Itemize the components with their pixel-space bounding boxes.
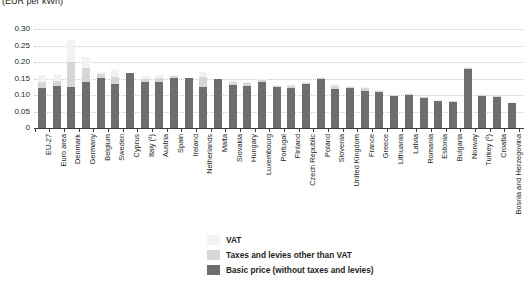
bar-segment-basic [420,98,428,128]
bar-segment-vat [67,40,75,62]
legend-item: VAT [207,232,374,247]
x-axis-label: Czech Republic [309,134,317,186]
bar-segment-basic [97,78,105,128]
bar-column [493,96,501,128]
bar-segment-basic [141,82,149,128]
bar-column [126,73,134,128]
legend-label: VAT [226,235,241,245]
x-axis-label: Bosnia and Herzegovina [515,134,523,215]
bar-segment-other [111,77,119,84]
bar-segment-basic [302,84,310,128]
bar-column [67,40,75,128]
bar-segment-basic [111,84,119,128]
bar-segment-other [82,68,90,83]
legend-swatch-vat [207,235,220,245]
x-axis-label: Hungary [250,134,258,162]
bar-column [449,101,457,128]
bar-segment-basic [361,91,369,128]
bar-segment-basic [449,102,457,128]
x-axis-label: Latvia [412,134,420,154]
bar-column [258,79,266,128]
bar-column [287,84,295,128]
bar-segment-vat [111,69,119,77]
x-axis-label: Greece [382,134,390,158]
x-axis-label: Croatia [500,134,508,158]
bar-column [508,102,516,128]
x-axis-label: Belgium [104,134,112,161]
bar-segment-basic [67,87,75,128]
bar-segment-vat [38,75,46,82]
legend-swatch-basic [207,265,220,275]
x-axis-label: Malta [221,134,229,152]
bar-segment-basic [434,101,442,128]
y-axis-tick-label: 0.15 [0,75,30,83]
x-axis-label: Germany [89,134,97,164]
bar-column [243,82,251,129]
x-axis-label: Austria [162,134,170,157]
bar-segment-basic [170,78,178,128]
y-axis-tick-label: 0.10 [0,91,30,99]
bar-segment-basic [155,82,163,128]
bar-column [53,74,61,128]
x-axis-label: Bulgaria [456,134,464,161]
x-axis-label: Turkey (²) [485,134,493,166]
legend-label: Basic price (without taxes and levies) [226,265,374,275]
bar-segment-other [199,77,207,87]
y-axis-tick-label: 0.05 [0,108,30,116]
bar-column [434,100,442,128]
bar-segment-basic [126,73,134,128]
bar-column [478,94,486,128]
plot-area: 00.050.100.150.200.250.30 [0,0,532,135]
legend-label: Taxes and levies other than VAT [226,250,352,260]
legend-item: Taxes and levies other than VAT [207,247,374,262]
bar-segment-basic [199,87,207,128]
bar-segment-basic [478,96,486,128]
bar-segment-basic [185,78,193,128]
bar-segment-basic [273,87,281,128]
x-axis-label: Estonia [441,134,449,159]
bar-segment-vat [53,74,61,81]
bar-column [375,90,383,128]
x-axis-label: Netherlands [206,134,214,174]
x-axis-label: Slovakia [236,134,244,162]
bar-segment-basic [508,103,516,128]
legend-item: Basic price (without taxes and levies) [207,262,374,277]
bar-segment-basic [317,79,325,128]
bar-column [155,75,163,128]
bar-column [390,95,398,128]
x-axis-label: Norway [471,134,479,159]
y-axis-tick-label: 0.30 [0,25,30,33]
bar-column [229,80,237,128]
x-axis-label: Lithuania [397,134,405,164]
chart-legend: VATTaxes and levies other than VATBasic … [207,232,374,277]
bar-segment-basic [243,86,251,128]
x-axis-label: Cyprus [133,134,141,157]
x-axis-label: France [368,134,376,157]
bar-segment-basic [493,97,501,128]
bar-column [214,79,222,129]
bar-column [346,86,354,128]
x-axis-label: EU-27 [45,134,53,155]
bar-column [317,77,325,128]
bar-segment-basic [464,69,472,128]
y-axis-tick-label: 0.20 [0,58,30,66]
bar-segment-vat [82,57,90,68]
x-axis-label: Euro area [60,134,68,166]
x-axis-label: Italy (²) [148,134,156,157]
bar-segment-basic [375,92,383,128]
bar-segment-basic [258,82,266,128]
x-axis-label: Denmark [74,134,82,164]
bar-segment-other [67,62,75,87]
bar-column [331,84,339,128]
bar-column [82,57,90,128]
bar-segment-basic [346,88,354,128]
legend-swatch-other [207,250,220,260]
x-axis-label: Luxembourg [265,134,273,175]
bar-column [302,82,310,128]
bar-column [199,72,207,128]
bar-segment-basic [214,79,222,129]
bar-segment-basic [405,95,413,128]
bar-segment-basic [82,82,90,128]
x-axis-label: Finland [294,134,302,158]
bar-segment-basic [229,85,237,128]
